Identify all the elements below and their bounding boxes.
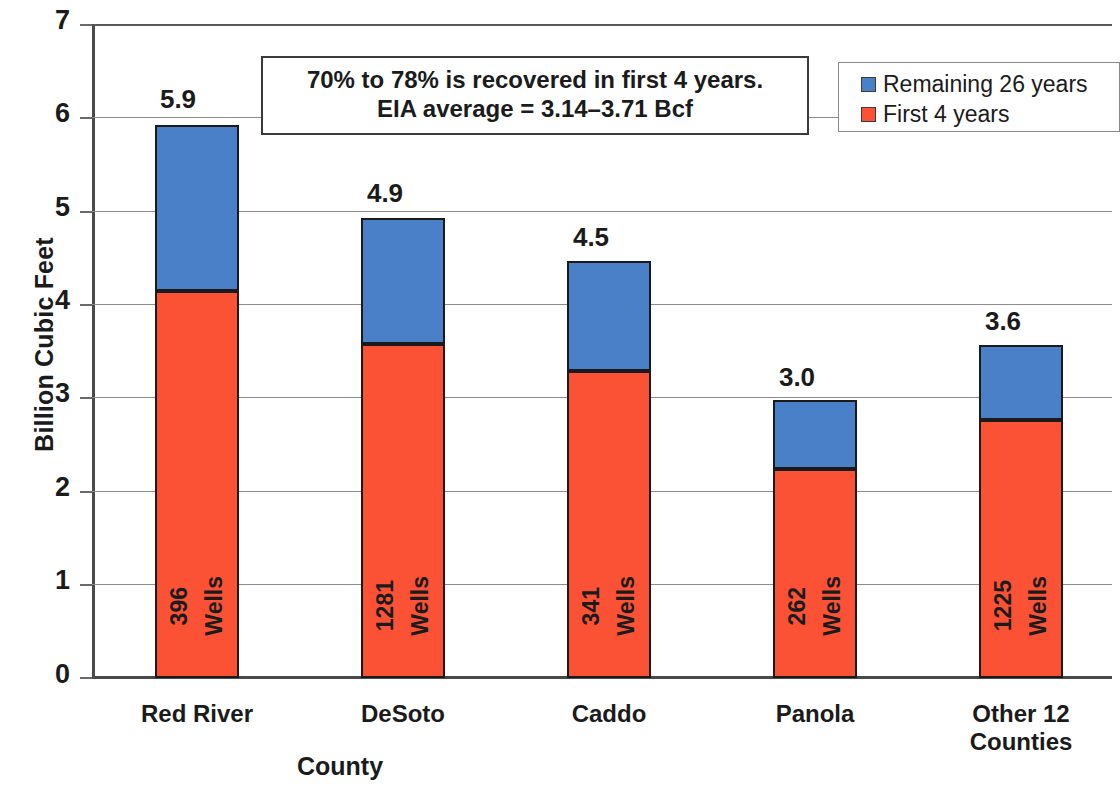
bar-wells-count: 396 <box>166 587 193 625</box>
legend: Remaining 26 years First 4 years <box>838 62 1120 132</box>
x-category-label-other-12-counties: Other 12 Counties <box>951 700 1091 755</box>
bar-segment-first4: 1281 Wells <box>361 344 445 678</box>
x-category-label-panola: Panola <box>745 700 885 728</box>
annotation-box: 70% to 78% is recovered in first 4 years… <box>261 56 809 135</box>
category-line-1: Caddo <box>539 700 679 728</box>
bar-wells-count: 1225 <box>990 580 1017 631</box>
bar-red-river[interactable]: 396 Wells <box>155 125 239 678</box>
annotation-line-1: 70% to 78% is recovered in first 4 years… <box>273 65 797 94</box>
bar-segment-first4: 341 Wells <box>567 371 651 678</box>
y-tick-label-1: 1 <box>0 567 70 594</box>
bar-total-label: 5.9 <box>113 84 243 115</box>
category-line-2: Counties <box>951 728 1091 756</box>
x-category-label-red-river: Red River <box>127 700 267 728</box>
bar-wells-count: 1281 <box>372 580 399 631</box>
bar-wells-unit: Wells <box>201 576 228 636</box>
bar-wells-count: 341 <box>578 587 605 625</box>
y-tick-label-2: 2 <box>0 474 70 501</box>
bar-wells-count: 262 <box>784 587 811 625</box>
x-axis-title: County <box>0 752 680 781</box>
bar-desoto[interactable]: 1281 Wells <box>361 218 445 678</box>
legend-item-first-4-years[interactable]: First 4 years <box>861 99 1119 129</box>
legend-label-remaining: Remaining 26 years <box>883 73 1088 96</box>
legend-label-first4: First 4 years <box>883 103 1010 126</box>
x-category-label-caddo: Caddo <box>539 700 679 728</box>
bar-wells-unit: Wells <box>613 576 640 636</box>
bar-wells-label: 1281 Wells <box>363 546 443 666</box>
bar-segment-remaining <box>155 125 239 291</box>
y-tick-label-3: 3 <box>0 380 70 407</box>
bar-segment-remaining <box>979 345 1063 420</box>
bar-panola[interactable]: 262 Wells <box>773 400 857 678</box>
y-tick-label-5: 5 <box>0 194 70 221</box>
bar-caddo[interactable]: 341 Wells <box>567 261 651 678</box>
bar-total-label: 3.6 <box>938 306 1068 337</box>
bar-total-label: 4.5 <box>526 222 656 253</box>
bar-wells-unit: Wells <box>407 576 434 636</box>
category-line-1: Panola <box>745 700 885 728</box>
y-tick-label-6: 6 <box>0 100 70 127</box>
y-tick-label-0: 0 <box>0 661 70 688</box>
y-tick-label-4: 4 <box>0 287 70 314</box>
bar-segment-remaining <box>361 218 445 344</box>
legend-swatch-icon-remaining <box>861 77 876 92</box>
bar-segment-first4: 1225 Wells <box>979 420 1063 678</box>
category-line-1: Other 12 <box>951 700 1091 728</box>
bar-segment-remaining <box>567 261 651 371</box>
bar-wells-label: 1225 Wells <box>981 546 1061 666</box>
bar-total-label: 4.9 <box>320 178 450 209</box>
legend-swatch-icon-first4 <box>861 107 876 122</box>
bar-wells-unit: Wells <box>819 576 846 636</box>
legend-item-remaining-26-years[interactable]: Remaining 26 years <box>861 69 1119 99</box>
category-line-1: DeSoto <box>333 700 473 728</box>
bar-segment-first4: 396 Wells <box>155 291 239 678</box>
bar-wells-unit: Wells <box>1025 576 1052 636</box>
y-axis-title: Billion Cubic Feet <box>30 205 59 485</box>
bar-wells-label: 396 Wells <box>157 546 237 666</box>
bar-wells-label: 341 Wells <box>569 546 649 666</box>
x-category-label-desoto: DeSoto <box>333 700 473 728</box>
annotation-line-2: EIA average = 3.14–3.71 Bcf <box>273 94 797 123</box>
bar-other-12-counties[interactable]: 1225 Wells <box>979 345 1063 678</box>
bar-segment-remaining <box>773 400 857 469</box>
gridline-5 <box>92 211 1112 212</box>
bar-wells-label: 262 Wells <box>775 546 855 666</box>
bar-segment-first4: 262 Wells <box>773 469 857 678</box>
y-tick-label-7: 7 <box>0 7 70 34</box>
category-line-1: Red River <box>127 700 267 728</box>
bar-total-label: 3.0 <box>732 362 862 393</box>
